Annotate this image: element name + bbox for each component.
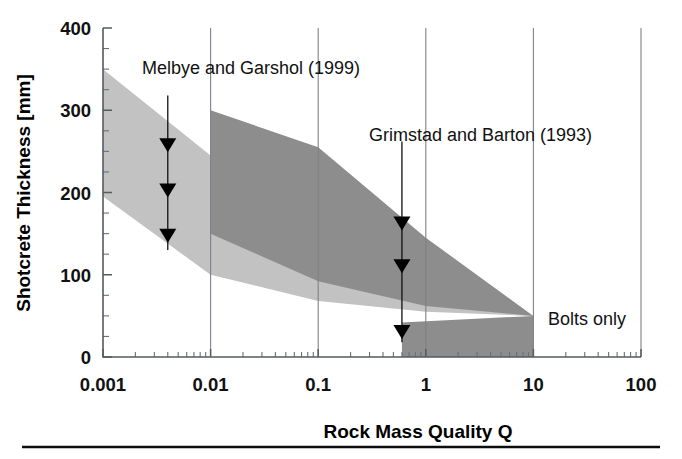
figure-container: 0100200300400 0.0010.010.1110100 Rock Ma…: [0, 0, 682, 459]
annotation-label-bolts-only: Bolts only: [548, 309, 626, 329]
x-tick-labels: 0.0010.010.1110100: [80, 374, 657, 395]
annotation-label-melbye: Melbye and Garshol (1999): [142, 58, 360, 78]
x-tick-label-0.001: 0.001: [80, 374, 126, 395]
annotation-label-grimstad: Grimstad and Barton (1993): [369, 125, 592, 145]
y-tick-label-0: 0: [81, 347, 91, 368]
y-axis-title: Shotcrete Thickness [mm]: [13, 74, 34, 312]
y-tick-label-100: 100: [60, 265, 91, 286]
band-bolts-only: [402, 316, 533, 357]
y-tick-label-300: 300: [60, 100, 91, 121]
x-axis-title: Rock Mass Quality Q: [323, 421, 512, 442]
x-tick-label-0.01: 0.01: [193, 374, 229, 395]
y-tick-labels: 0100200300400: [60, 18, 91, 368]
y-tick-label-400: 400: [60, 18, 91, 39]
shotcrete-thickness-chart: 0100200300400 0.0010.010.1110100 Rock Ma…: [0, 0, 682, 459]
x-tick-label-1: 1: [421, 374, 431, 395]
x-tick-label-10: 10: [523, 374, 544, 395]
x-tick-label-100: 100: [626, 374, 657, 395]
x-tick-label-0.1: 0.1: [305, 374, 331, 395]
y-tick-label-200: 200: [60, 183, 91, 204]
